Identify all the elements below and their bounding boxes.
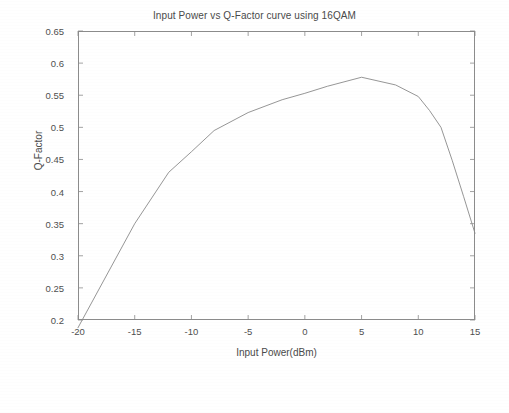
y-tick-label: 0.55 (46, 90, 65, 101)
y-axis-tick-labels: 0.20.250.30.350.40.450.50.550.60.65 (0, 31, 72, 320)
data-series-line (78, 31, 475, 320)
y-tick-label: 0.5 (51, 122, 64, 133)
x-tick-label: -15 (128, 326, 142, 337)
y-tick-label: 0.35 (46, 218, 65, 229)
y-tick-label: 0.6 (51, 58, 64, 69)
y-tick-label: 0.2 (51, 315, 64, 326)
y-tick-label: 0.65 (46, 26, 65, 37)
x-tick-label: 15 (470, 326, 481, 337)
x-tick-label: -10 (185, 326, 199, 337)
y-tick-label: 0.25 (46, 282, 65, 293)
plot-area (78, 31, 475, 320)
series-polyline (78, 77, 475, 327)
y-tick-label: 0.45 (46, 154, 65, 165)
y-tick-label: 0.3 (51, 250, 64, 261)
x-tick-label: -5 (244, 326, 252, 337)
x-tick-label: 10 (413, 326, 424, 337)
x-axis-tick-labels: -20-15-10-5051015 (78, 326, 475, 344)
y-tick-label: 0.4 (51, 186, 64, 197)
x-tick-label: 0 (302, 326, 307, 337)
x-axis-label: Input Power(dBm) (78, 347, 475, 358)
x-tick-label: 5 (359, 326, 364, 337)
chart-title: Input Power vs Q-Factor curve using 16QA… (0, 10, 509, 21)
figure-canvas: Input Power vs Q-Factor curve using 16QA… (0, 0, 509, 413)
x-tick-label: -20 (71, 326, 85, 337)
